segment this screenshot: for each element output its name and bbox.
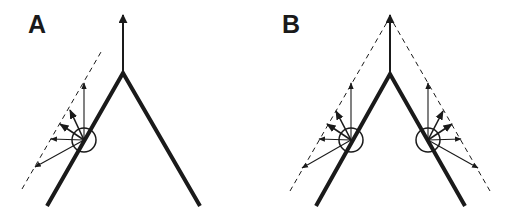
force-vector-arrow: [319, 139, 351, 140]
panel-b: [290, 15, 490, 206]
force-vector-arrow: [428, 139, 461, 140]
force-vector-arrow: [51, 139, 84, 140]
dashed-boundary-line: [22, 52, 101, 189]
panel-a: [22, 15, 200, 206]
diagram-canvas: [0, 0, 510, 219]
